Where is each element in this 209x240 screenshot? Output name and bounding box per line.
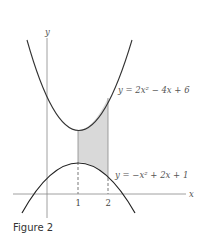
y-axis-label: y — [44, 27, 50, 37]
area-between-curves-figure: y x 1 2 y = 2x² − 4x + 6 y = −x² + 2x + … — [0, 0, 209, 240]
upper-parabola-curve — [27, 40, 132, 131]
figure-caption: Figure 2 — [13, 222, 53, 233]
x-axis-label: x — [189, 189, 194, 199]
x-tick-2: 2 — [106, 198, 111, 208]
upper-curve-label: y = 2x² − 4x + 6 — [117, 85, 190, 95]
lower-curve-label: y = −x² + 2x + 1 — [114, 170, 188, 180]
x-tick-1: 1 — [76, 198, 81, 208]
